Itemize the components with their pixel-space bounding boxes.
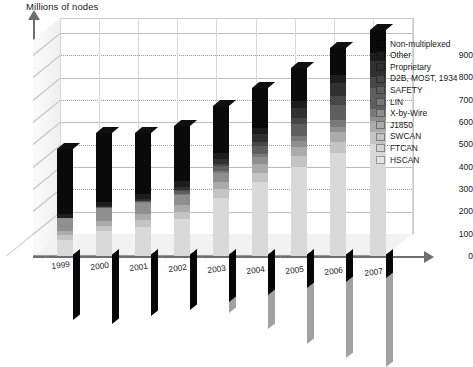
bar-segment	[330, 142, 346, 153]
bar-column	[96, 255, 112, 256]
bar-segment	[252, 154, 268, 157]
legend-label: Other	[390, 51, 411, 59]
bar-segment	[291, 167, 307, 256]
gridline	[60, 167, 412, 169]
x-tick-label: 2004	[246, 264, 265, 274]
bar-segment	[174, 212, 190, 220]
legend-item[interactable]: J1850	[376, 119, 473, 131]
bar-segment	[291, 156, 307, 166]
bar-segment-side	[73, 250, 80, 320]
y-tick-mark	[33, 256, 38, 257]
legend-item[interactable]: SWCAN	[376, 131, 473, 143]
legend-item[interactable]: HSCAN	[376, 154, 473, 166]
legend-label: SAFETY	[390, 86, 423, 94]
bar-segment	[174, 190, 190, 191]
bar-segment	[252, 128, 268, 134]
x-tick-label: 2000	[90, 261, 109, 271]
bar-segment	[174, 195, 190, 205]
legend-label: LIN	[390, 98, 403, 106]
bar-segment	[291, 118, 307, 124]
y-tick-label: 200	[445, 207, 473, 216]
floor-separator	[6, 234, 34, 257]
bar-segment	[174, 187, 190, 190]
legend-item[interactable]: D2B, MOST, 1934	[376, 73, 473, 85]
bar-segment	[330, 75, 346, 82]
legend-swatch-icon	[376, 109, 385, 117]
bar-segment	[330, 127, 346, 132]
bar-segment	[174, 181, 190, 186]
gridline	[60, 122, 412, 124]
x-tick-label: 2005	[285, 265, 304, 275]
bar-segment	[135, 194, 151, 199]
bar-segment	[57, 214, 73, 218]
gridline	[60, 145, 412, 147]
bar-segment	[135, 220, 151, 227]
bar-segment	[57, 240, 73, 256]
bar-segment-side	[151, 250, 158, 316]
legend-label: HSCAN	[390, 156, 419, 164]
bar-segment	[213, 189, 229, 197]
legend-item[interactable]: SAFETY	[376, 84, 473, 96]
legend-swatch-icon	[376, 40, 385, 48]
bar-segment	[252, 157, 268, 165]
legend-label: J1850	[390, 121, 413, 129]
bar-segment	[174, 219, 190, 256]
legend: Non-multiplexedOtherProprietaryD2B, MOST…	[376, 38, 473, 166]
legend-swatch-icon	[376, 144, 385, 152]
bar-segment	[135, 199, 151, 201]
bar-segment	[135, 227, 151, 256]
bar-segment	[213, 164, 229, 166]
bar-segment	[291, 136, 307, 141]
bar-segment	[330, 120, 346, 127]
gridline	[60, 100, 412, 102]
bar-segment	[57, 231, 73, 235]
bar-segment	[96, 133, 112, 202]
bar-segment	[252, 88, 268, 128]
legend-swatch-icon	[376, 75, 385, 83]
gridline	[60, 212, 412, 214]
legend-item[interactable]: Proprietary	[376, 61, 473, 73]
y-tick-label: 300	[445, 185, 473, 194]
x-tick-label: 2001	[129, 262, 148, 272]
bar-segment	[330, 105, 346, 121]
legend-item[interactable]: Non-multiplexed	[376, 38, 473, 50]
bar-segment	[96, 206, 112, 207]
bar-segment	[291, 68, 307, 101]
bar-column	[330, 255, 346, 256]
legend-item[interactable]: X-by-Wire	[376, 108, 473, 120]
bar-segment	[96, 221, 112, 226]
bar-column	[370, 255, 386, 256]
bar-segment	[96, 202, 112, 206]
x-tick-label: 2007	[364, 267, 383, 277]
legend-swatch-icon	[376, 121, 385, 129]
bar-column	[174, 255, 190, 256]
bar-segment	[330, 83, 346, 96]
bar-segment	[330, 96, 346, 105]
legend-label: FTCAN	[390, 144, 418, 152]
bar-segment	[96, 208, 112, 221]
bar-segment	[96, 231, 112, 256]
legend-swatch-icon	[376, 133, 385, 141]
bar-segment	[330, 153, 346, 256]
y-tick-label: 0	[445, 252, 473, 261]
bar-segment	[252, 173, 268, 182]
legend-item[interactable]: FTCAN	[376, 142, 473, 154]
x-axis-arrow	[424, 251, 434, 263]
x-tick-label: 2006	[324, 266, 343, 276]
bar-column	[57, 255, 73, 256]
gridline	[60, 33, 412, 35]
bar-segment	[213, 106, 229, 153]
bar-segment	[135, 133, 151, 194]
legend-item[interactable]: Other	[376, 50, 473, 62]
legend-item[interactable]: LIN	[376, 96, 473, 108]
bar-segment	[213, 198, 229, 256]
bar-column	[291, 255, 307, 256]
bar-segment	[252, 142, 268, 146]
bar-segment	[252, 134, 268, 141]
legend-label: D2B, MOST, 1934	[390, 74, 458, 82]
bar-segment	[174, 191, 190, 194]
bar-segment	[213, 159, 229, 164]
bar-segment	[252, 164, 268, 172]
bar-segment	[291, 101, 307, 108]
